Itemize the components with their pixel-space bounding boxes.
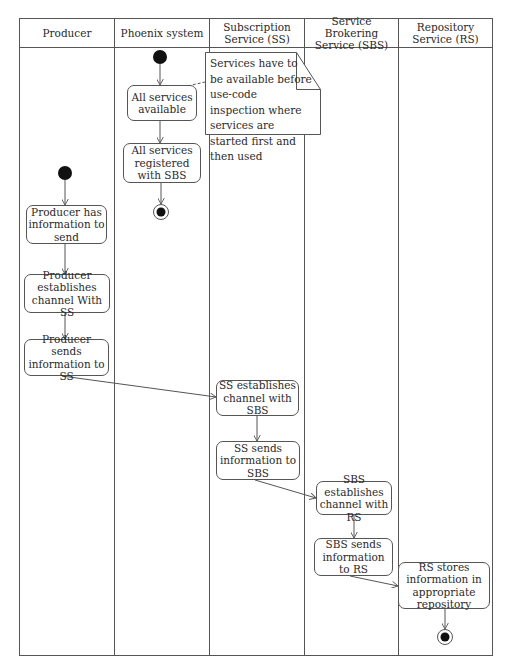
rs-end-node-dot xyxy=(441,633,450,642)
activity-sbs-establishes: SBS establishes channel with RS xyxy=(316,481,392,515)
lane-header-sbs: Service Brokering Service (SBS) xyxy=(305,18,398,47)
activity-sbs-sends: SBS sends information to RS xyxy=(314,538,393,576)
activity-all-services-registered: All services registered with SBS xyxy=(123,143,201,183)
activity-producer-has-info: Producer has information to send xyxy=(26,205,107,244)
producer-start-node xyxy=(58,166,72,180)
phoenix-end-node-dot xyxy=(157,208,166,217)
activity-ss-sends: SS sends information to SBS xyxy=(216,441,300,480)
activity-producer-establishes: Producer establishes channel With SS xyxy=(24,274,110,313)
activity-ss-establishes: SS establishes channel with SBS xyxy=(216,380,299,416)
activity-rs-stores: RS stores information in appropriate rep… xyxy=(398,562,490,609)
lane-header-rs: Repository Service (RS) xyxy=(399,18,492,47)
phoenix-start-node xyxy=(153,50,167,64)
activity-all-services-available: All services available xyxy=(127,85,197,121)
activity-diagram: Producer Phoenix system Subscription Ser… xyxy=(0,0,509,668)
lane-header-ss: Subscription Service (SS) xyxy=(210,18,304,47)
note-text: Services have to be available before use… xyxy=(205,53,317,134)
activity-producer-sends: Producer sends information to SS xyxy=(24,339,109,376)
lane-header-phoenix: Phoenix system xyxy=(115,18,209,47)
lane-header-producer: Producer xyxy=(20,18,114,47)
